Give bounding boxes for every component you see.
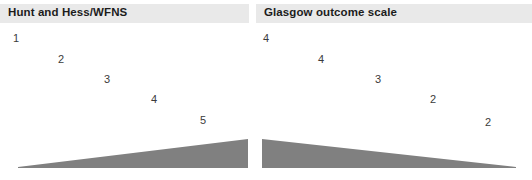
grade-label-1: 4 [263, 33, 269, 44]
grade-label-3: 3 [375, 74, 381, 85]
grade-label-1: 1 [13, 33, 19, 44]
grade-label-5: 5 [200, 115, 206, 126]
panel-title-hunt-hess-wfns: Hunt and Hess/WFNS [8, 6, 127, 18]
outcome-wedge-decreasing-icon [262, 137, 516, 168]
grading-scales-figure: Hunt and Hess/WFNS 1 2 3 4 5 Glasgow out… [0, 0, 532, 180]
grade-label-5: 2 [485, 117, 491, 128]
grade-label-2: 2 [58, 54, 64, 65]
panel-title-glasgow-outcome-scale: Glasgow outcome scale [264, 6, 397, 18]
grade-label-4: 4 [151, 94, 157, 105]
grade-label-3: 3 [104, 74, 110, 85]
panel-header-bar-left: Hunt and Hess/WFNS [0, 4, 249, 23]
grade-label-2: 4 [318, 54, 324, 65]
panel-hunt-hess-wfns: Hunt and Hess/WFNS 1 2 3 4 5 [0, 0, 249, 180]
panel-header-bar-right: Glasgow outcome scale [256, 4, 532, 23]
severity-wedge-increasing-icon [18, 137, 248, 168]
grade-label-4: 2 [430, 94, 436, 105]
panel-glasgow-outcome-scale: Glasgow outcome scale 4 4 3 2 2 [256, 0, 532, 180]
